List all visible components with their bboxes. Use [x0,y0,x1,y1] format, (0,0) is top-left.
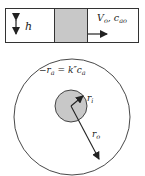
height-label: h [25,20,32,33]
diagram-canvas: h Vo, cao −ra = k″ca ri ro [0,0,145,176]
catalyst-block [55,9,88,43]
slab-section: h Vo, cao [6,9,139,43]
pellet-section: −ra = k″ca ri ro [14,59,130,175]
